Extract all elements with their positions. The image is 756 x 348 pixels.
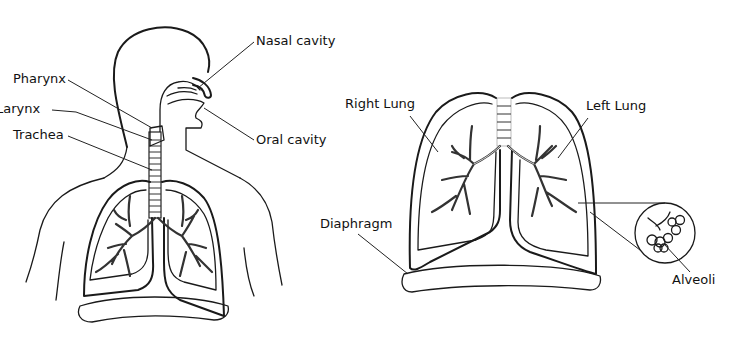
left-lung-inner [516, 103, 588, 256]
head-outline [114, 27, 209, 147]
nasal-passage [160, 81, 200, 148]
label-pharynx: Pharynx [13, 71, 66, 86]
label-diaphragm: Diaphragm [320, 216, 392, 231]
left-labels: Nasal cavity Pharynx Larynx Trachea Oral… [0, 33, 336, 170]
left-lung-outer [510, 93, 596, 274]
leader-larynx [52, 110, 152, 140]
label-trachea: Trachea [12, 127, 64, 142]
arm-right [244, 248, 254, 296]
arm-left [56, 242, 64, 300]
right-labels: Right Lung Left Lung Diaphragm Alveoli [320, 96, 715, 287]
leader-trachea [68, 136, 152, 170]
trachea [149, 132, 161, 218]
label-larynx: Larynx [0, 101, 40, 116]
label-right-lung: Right Lung [345, 96, 415, 111]
leader-alveoli [664, 244, 690, 272]
label-left-lung: Left Lung [586, 98, 646, 113]
trachea-large [497, 98, 511, 146]
leader-diaphragm [358, 234, 408, 274]
leader-pharynx [68, 80, 152, 128]
leader-right-lung [410, 116, 438, 152]
respiratory-diagram: Nasal cavity Pharynx Larynx Trachea Oral… [0, 0, 756, 348]
leader-oral-cavity [204, 108, 254, 140]
label-oral-cavity: Oral cavity [256, 132, 327, 147]
label-nasal-cavity: Nasal cavity [256, 33, 336, 48]
nose-outline [193, 78, 211, 98]
oral-cavity-outline [168, 99, 240, 178]
lungs-figure [402, 93, 695, 292]
diaphragm-large [402, 265, 600, 292]
lung-right-small-inner [90, 190, 148, 280]
label-alveoli: Alveoli [672, 272, 715, 287]
